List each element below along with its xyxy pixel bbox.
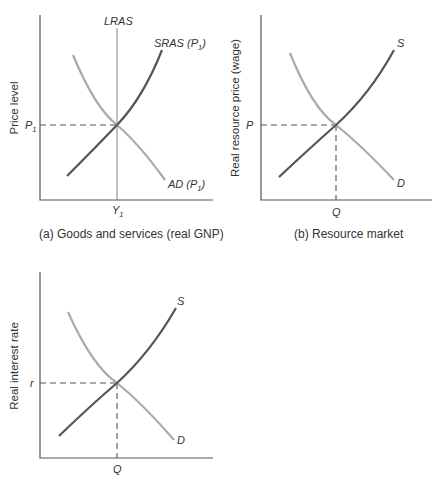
y1-tick-label: Y1 bbox=[112, 204, 124, 219]
panel-c-loanable-funds: S D r Q Real interest rate bbox=[8, 272, 213, 475]
panel-b-caption: (b) Resource market bbox=[294, 227, 404, 241]
panel-a-goods-and-services: LRAS SRAS(P1) AD(P1) P1 Y1 Price level (… bbox=[8, 15, 224, 241]
panel-b-resource-market: S D P Q Real resource price (wage) (b) R… bbox=[229, 15, 432, 241]
demand-curve-c bbox=[68, 312, 174, 440]
resource-price-axis-label: Real resource price (wage) bbox=[229, 39, 241, 177]
real-interest-rate-axis-label: Real interest rate bbox=[8, 322, 20, 410]
p1-tick-label: P1 bbox=[25, 119, 37, 134]
r-tick-label: r bbox=[30, 377, 35, 389]
p-tick-label: P bbox=[246, 119, 254, 131]
panel-a-caption: (a) Goods and services (real GNP) bbox=[39, 227, 224, 241]
price-level-axis-label: Price level bbox=[8, 81, 20, 134]
q-tick-label-c: Q bbox=[113, 463, 122, 475]
lras-label: LRAS bbox=[104, 15, 133, 27]
demand-label-b: D bbox=[397, 177, 405, 189]
panel-b-axes bbox=[261, 15, 432, 200]
demand-label-c: D bbox=[177, 434, 185, 446]
ad-label: AD(P1) bbox=[167, 178, 205, 193]
sras-label: SRAS(P1) bbox=[154, 37, 206, 52]
q-tick-label-b: Q bbox=[332, 206, 341, 218]
economics-diagram: LRAS SRAS(P1) AD(P1) P1 Y1 Price level (… bbox=[0, 0, 440, 485]
supply-label-b: S bbox=[397, 37, 405, 49]
supply-label-c: S bbox=[177, 295, 185, 307]
demand-curve-b bbox=[290, 53, 394, 180]
